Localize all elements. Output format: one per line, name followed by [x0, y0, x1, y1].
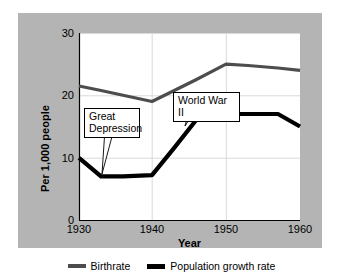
y-tick-label: 20: [48, 90, 74, 101]
legend-item-population-growth-rate: Population growth rate: [147, 261, 275, 272]
x-axis-title: Year: [79, 238, 300, 249]
x-tick-label: 1940: [129, 224, 175, 235]
legend-item-birthrate: Birthrate: [68, 261, 131, 272]
y-tick-label: 10: [48, 153, 74, 164]
legend-label-population-growth-rate: Population growth rate: [170, 261, 275, 272]
chart-legend: Birthrate Population growth rate: [0, 256, 343, 276]
y-axis-title: Per 1,000 people: [40, 105, 51, 192]
chart-figure: 30 20 10 0 Per 1,000 people 1930 1940 19…: [0, 0, 343, 279]
annotation-world-war-2: World War II: [173, 92, 240, 122]
x-tick-label: 1930: [56, 224, 102, 235]
legend-swatch-population-growth-rate-icon: [147, 264, 165, 269]
y-tick-label: 30: [48, 28, 74, 39]
x-tick-label: 1960: [277, 224, 323, 235]
x-tick-label: 1950: [203, 224, 249, 235]
legend-swatch-birthrate-icon: [68, 264, 86, 268]
annotation-great-depression: Great Depression: [84, 108, 140, 138]
legend-label-birthrate: Birthrate: [91, 261, 131, 272]
